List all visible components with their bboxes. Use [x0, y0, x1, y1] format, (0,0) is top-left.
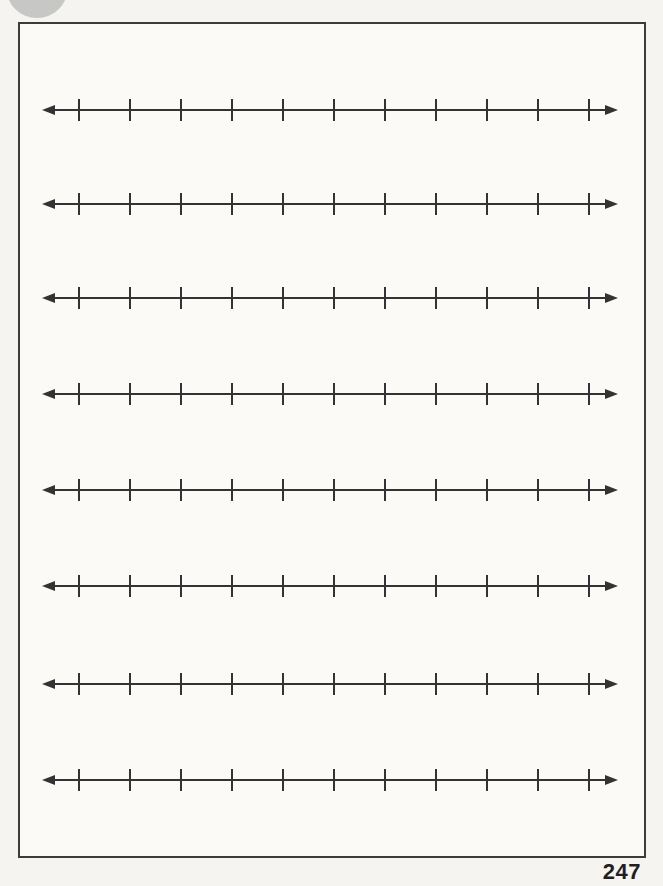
tick-mark	[588, 673, 590, 695]
tick-mark	[588, 575, 590, 597]
tick-mark	[129, 99, 131, 121]
tick-mark	[282, 479, 284, 501]
tick-mark	[435, 575, 437, 597]
tick-mark	[333, 287, 335, 309]
tick-mark	[588, 193, 590, 215]
arrow-right-icon	[605, 293, 618, 303]
tick-mark	[537, 287, 539, 309]
tick-mark	[486, 99, 488, 121]
tick-mark	[282, 99, 284, 121]
tick-mark	[231, 193, 233, 215]
tick-mark	[384, 479, 386, 501]
tick-mark	[231, 99, 233, 121]
tick-mark	[333, 673, 335, 695]
tick-mark	[78, 193, 80, 215]
tick-mark	[78, 99, 80, 121]
tick-mark	[333, 479, 335, 501]
tick-mark	[282, 383, 284, 405]
arrow-right-icon	[605, 199, 618, 209]
tick-mark	[282, 575, 284, 597]
number-line-rule	[49, 393, 611, 395]
tick-mark	[78, 479, 80, 501]
page-number: 247	[603, 859, 641, 885]
tick-mark	[78, 575, 80, 597]
tick-mark	[129, 383, 131, 405]
arrow-right-icon	[605, 775, 618, 785]
tick-mark	[129, 769, 131, 791]
tick-mark	[231, 287, 233, 309]
tick-mark	[231, 479, 233, 501]
tick-mark	[231, 673, 233, 695]
tick-mark	[231, 575, 233, 597]
tick-mark	[333, 383, 335, 405]
arrow-right-icon	[605, 389, 618, 399]
tick-mark	[333, 575, 335, 597]
tick-mark	[231, 383, 233, 405]
number-line-rule	[49, 109, 611, 111]
number-line-rule	[49, 683, 611, 685]
number-lines-container	[0, 0, 663, 886]
tick-mark	[384, 287, 386, 309]
tick-mark	[180, 575, 182, 597]
tick-mark	[435, 383, 437, 405]
arrow-right-icon	[605, 581, 618, 591]
tick-mark	[588, 287, 590, 309]
tick-mark	[384, 99, 386, 121]
tick-mark	[537, 193, 539, 215]
tick-mark	[180, 193, 182, 215]
tick-mark	[180, 673, 182, 695]
tick-mark	[282, 673, 284, 695]
tick-mark	[78, 383, 80, 405]
tick-mark	[486, 769, 488, 791]
arrow-right-icon	[605, 485, 618, 495]
tick-mark	[486, 575, 488, 597]
tick-mark	[435, 479, 437, 501]
tick-mark	[537, 99, 539, 121]
tick-mark	[282, 287, 284, 309]
tick-mark	[486, 673, 488, 695]
tick-mark	[282, 193, 284, 215]
number-line-rule	[49, 779, 611, 781]
tick-mark	[537, 673, 539, 695]
tick-mark	[129, 287, 131, 309]
tick-mark	[78, 673, 80, 695]
tick-mark	[588, 99, 590, 121]
tick-mark	[180, 383, 182, 405]
tick-mark	[78, 287, 80, 309]
tick-mark	[129, 673, 131, 695]
number-line-rule	[49, 489, 611, 491]
tick-mark	[231, 769, 233, 791]
tick-mark	[537, 575, 539, 597]
tick-mark	[129, 575, 131, 597]
tick-mark	[537, 479, 539, 501]
tick-mark	[180, 99, 182, 121]
tick-mark	[333, 99, 335, 121]
tick-mark	[384, 575, 386, 597]
tick-mark	[435, 673, 437, 695]
tick-mark	[435, 193, 437, 215]
tick-mark	[129, 479, 131, 501]
tick-mark	[588, 479, 590, 501]
tick-mark	[486, 287, 488, 309]
tick-mark	[384, 673, 386, 695]
tick-mark	[384, 193, 386, 215]
tick-mark	[78, 769, 80, 791]
number-line-rule	[49, 297, 611, 299]
worksheet-page: 247	[0, 0, 663, 886]
tick-mark	[435, 99, 437, 121]
tick-mark	[486, 479, 488, 501]
tick-mark	[282, 769, 284, 791]
tick-mark	[486, 383, 488, 405]
tick-mark	[180, 479, 182, 501]
tick-mark	[588, 769, 590, 791]
tick-mark	[180, 769, 182, 791]
number-line-rule	[49, 585, 611, 587]
tick-mark	[129, 193, 131, 215]
tick-mark	[588, 383, 590, 405]
tick-mark	[384, 769, 386, 791]
tick-mark	[435, 769, 437, 791]
number-line-rule	[49, 203, 611, 205]
tick-mark	[435, 287, 437, 309]
tick-mark	[537, 383, 539, 405]
tick-mark	[333, 769, 335, 791]
